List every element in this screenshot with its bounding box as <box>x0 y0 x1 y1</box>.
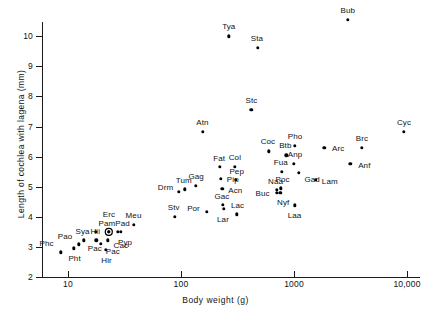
data-point-label: Pam <box>99 218 116 227</box>
data-point <box>322 146 325 149</box>
data-point-label: Gad <box>304 174 319 183</box>
x-tick-mark <box>181 271 182 277</box>
data-point <box>235 213 238 216</box>
data-point-label: Bub <box>341 5 356 14</box>
data-point <box>119 230 122 233</box>
x-tick-label: 1000 <box>284 279 304 289</box>
data-point-label: Anp <box>288 149 303 158</box>
y-tick-mark <box>36 157 42 158</box>
data-point <box>402 130 405 133</box>
x-tick-label: 100 <box>174 279 189 289</box>
data-point-label: Stc <box>245 95 257 104</box>
x-tick-mark <box>294 271 295 277</box>
data-point <box>72 247 75 250</box>
y-tick-mark <box>36 66 42 67</box>
data-point-label: Cyc <box>397 117 411 126</box>
data-point <box>106 239 109 242</box>
data-point <box>99 242 102 245</box>
data-point <box>95 239 98 242</box>
data-point <box>132 223 135 226</box>
x-tick-mark <box>407 271 408 277</box>
y-tick-mark <box>36 277 42 278</box>
y-tick-label: 2 <box>0 272 33 282</box>
data-point-label: Brc <box>356 133 368 142</box>
data-point <box>77 242 80 245</box>
x-tick-label: 10,000 <box>393 279 420 289</box>
data-point <box>297 171 300 174</box>
data-point <box>222 207 225 210</box>
data-point <box>293 144 296 147</box>
data-point <box>346 18 349 21</box>
data-point-label: Pad <box>115 218 130 227</box>
data-point <box>201 130 204 133</box>
data-point-label: Buc <box>255 189 269 198</box>
data-point <box>349 162 352 165</box>
data-point <box>107 230 110 233</box>
data-point-label: Hii <box>90 227 100 236</box>
data-point-label: Stv <box>168 202 180 211</box>
data-point-label: Pyp <box>118 237 132 246</box>
data-point <box>360 146 363 149</box>
data-point-label: Arc <box>332 143 344 152</box>
data-point-label: Meu <box>126 210 142 219</box>
y-tick-mark <box>36 36 42 37</box>
data-point-label: Acn <box>228 186 242 195</box>
y-tick-mark <box>36 217 42 218</box>
data-point <box>183 188 186 191</box>
data-point <box>177 190 180 193</box>
x-tick-label: 10 <box>63 279 73 289</box>
y-axis-title: Length of cochlea with lagena (mm) <box>16 54 26 234</box>
y-tick-mark <box>36 127 42 128</box>
data-point <box>280 170 283 173</box>
data-point-label: Hir <box>101 255 112 264</box>
data-point <box>218 165 221 168</box>
x-axis-line <box>42 277 420 278</box>
data-point <box>227 34 230 37</box>
data-point-label: Col <box>229 152 241 161</box>
data-point-label: Nyf <box>277 197 289 206</box>
data-point-label: Tya <box>222 22 235 31</box>
data-point <box>173 215 176 218</box>
data-point <box>292 162 295 165</box>
scatter-plot-figure: 2345678910 10100100010,000 PhcPhtPaoPacS… <box>0 0 431 316</box>
y-tick-label: 3 <box>0 242 33 252</box>
data-point-label: Lac <box>231 201 244 210</box>
y-tick-mark <box>36 187 42 188</box>
data-point-label: Atn <box>196 117 208 126</box>
data-point <box>250 108 253 111</box>
data-point-label: Erc <box>103 209 115 218</box>
data-point-label: Pht <box>68 254 80 263</box>
data-point-label: Pao <box>58 232 73 241</box>
data-point <box>82 239 85 242</box>
data-point <box>279 186 282 189</box>
data-point-label: Por <box>187 203 200 212</box>
data-point-label: Fat <box>213 153 225 162</box>
data-point <box>194 184 197 187</box>
data-point-label: Pho <box>288 132 303 141</box>
y-tick-label: 10 <box>0 31 33 41</box>
data-point-label: Fua <box>274 157 288 166</box>
data-point-label: Sya <box>75 226 89 235</box>
data-point-label: Sta <box>251 33 263 42</box>
data-point <box>205 210 208 213</box>
data-point <box>221 203 224 206</box>
data-point-label: Poc <box>275 175 289 184</box>
data-point <box>278 191 281 194</box>
data-point <box>59 251 62 254</box>
data-point-label: Drm <box>158 183 173 192</box>
data-point-label: Phc <box>40 239 54 248</box>
data-point-label: Coc <box>261 137 276 146</box>
x-tick-mark <box>68 271 69 277</box>
data-point <box>221 187 224 190</box>
data-point-label: Lar <box>217 214 229 223</box>
data-point-label: Laa <box>288 211 302 220</box>
y-tick-mark <box>36 96 42 97</box>
x-axis-title: Body weight (g) <box>0 295 431 305</box>
data-point <box>267 149 270 152</box>
data-point <box>256 46 259 49</box>
data-point-label: Pep <box>229 166 244 175</box>
data-point <box>293 204 296 207</box>
data-point-label: Lam <box>322 177 338 186</box>
data-point-label: Gac <box>214 191 229 200</box>
data-point-label: Anf <box>358 160 370 169</box>
